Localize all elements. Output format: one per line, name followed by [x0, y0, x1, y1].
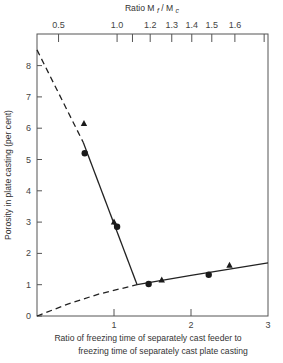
- y-tick-label: 3: [26, 217, 31, 227]
- y-tick-label: 1: [26, 280, 31, 290]
- data-points: [81, 120, 233, 287]
- y-tick-label: 2: [26, 248, 31, 258]
- y-axis: 012345678: [26, 61, 42, 321]
- shallow-dashed-line: [37, 285, 137, 316]
- top-tick-label: 1.3: [165, 20, 178, 30]
- top-axis: 0.51.01.21.31.41.51.6: [52, 20, 264, 42]
- plot-border: [37, 34, 268, 316]
- x-axis-title-line2: freezing time of separately cast plate c…: [78, 346, 248, 356]
- trend-lines: [37, 50, 268, 316]
- top-tick-label: 1.0: [111, 20, 124, 30]
- circle-marker: [82, 150, 88, 156]
- porosity-chart: 012345678 123 0.51.01.21.31.41.51.6 Rati…: [0, 0, 283, 363]
- top-tick-label: 0.5: [52, 20, 65, 30]
- x-axis-title-line1: Ratio of freezing time of separately cas…: [54, 333, 241, 343]
- top-tick-label: 1.6: [229, 20, 242, 30]
- y-tick-label: 0: [26, 311, 31, 321]
- triangle-marker: [81, 120, 87, 126]
- y-tick-label: 7: [26, 92, 31, 102]
- top-tick-label: 1.2: [144, 20, 157, 30]
- triangle-marker: [226, 262, 232, 268]
- x-tick-label: 3: [265, 320, 270, 330]
- x-axis: 123: [111, 309, 270, 330]
- y-tick-label: 6: [26, 123, 31, 133]
- top-tick-label: 1.4: [186, 20, 199, 30]
- x-tick-label: 1: [111, 320, 116, 330]
- shallow-solid-line: [137, 263, 268, 285]
- top-axis-title: Ratio M f / M c: [125, 3, 180, 15]
- y-axis-title: Porosity in plate casting (per cent): [3, 110, 13, 240]
- plot-frame: [37, 34, 268, 316]
- steep-solid-line: [83, 142, 137, 284]
- x-tick-label: 2: [188, 320, 193, 330]
- steep-dashed-line: [37, 50, 83, 142]
- y-tick-label: 8: [26, 61, 31, 71]
- y-tick-label: 5: [26, 155, 31, 165]
- circle-marker: [145, 281, 151, 287]
- top-tick-label: 1.5: [206, 20, 219, 30]
- circle-marker: [206, 271, 212, 277]
- y-tick-label: 4: [26, 186, 31, 196]
